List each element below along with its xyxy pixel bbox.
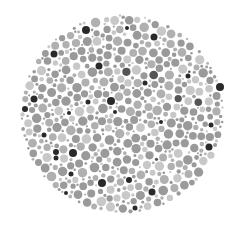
dark-dot xyxy=(51,51,58,58)
dark-dot xyxy=(22,106,28,112)
dot-plate xyxy=(0,0,246,228)
dark-dot xyxy=(209,123,214,128)
dark-dot xyxy=(107,97,115,105)
dark-dot xyxy=(206,144,213,151)
dark-dot xyxy=(69,149,77,157)
dark-dot xyxy=(143,81,148,86)
dark-dot xyxy=(54,156,59,161)
dot-field xyxy=(20,14,223,213)
dark-dot xyxy=(53,149,59,155)
dark-dot xyxy=(96,63,103,70)
dark-dot xyxy=(125,26,129,30)
dark-dot xyxy=(186,74,191,79)
dark-dot xyxy=(133,206,138,211)
dark-dot xyxy=(31,96,38,103)
dark-dot xyxy=(69,172,74,177)
dark-dot xyxy=(151,34,158,41)
dark-dot xyxy=(98,179,106,187)
dark-dot xyxy=(126,177,132,183)
dark-dot xyxy=(159,120,163,124)
dark-dot xyxy=(64,191,68,195)
dark-dot xyxy=(86,100,91,105)
dark-dot xyxy=(149,189,156,196)
dark-dot xyxy=(82,26,90,34)
dark-dot xyxy=(216,83,224,91)
dark-dot xyxy=(67,111,71,115)
dark-dot xyxy=(42,133,47,138)
dark-dot xyxy=(113,110,117,114)
